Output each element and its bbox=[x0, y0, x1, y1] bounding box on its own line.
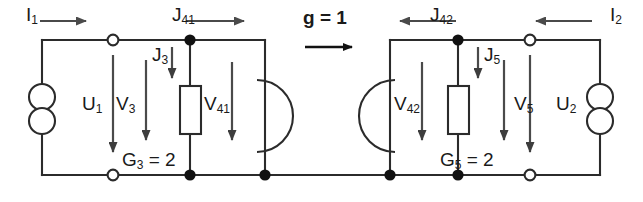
node-j41-top bbox=[184, 34, 195, 45]
circuit-diagram-figure: I1 J41 g = 1 J42 I2 U1 J3 V3 V41 G3 = 2 … bbox=[0, 0, 643, 202]
label-g3: G3 = 2 bbox=[122, 150, 176, 175]
terminal-open-bottom-left bbox=[108, 170, 119, 181]
label-j5: J5 bbox=[484, 45, 500, 70]
label-u2: U2 bbox=[556, 94, 576, 119]
node-right-inner-bottom bbox=[384, 169, 395, 180]
label-g5: G5 = 2 bbox=[440, 150, 494, 175]
label-j42: J42 bbox=[430, 5, 453, 30]
source-u2-symbol bbox=[587, 84, 613, 134]
resistor-g5-body bbox=[448, 86, 469, 134]
resistor-g3-body bbox=[180, 86, 201, 134]
label-i1: I1 bbox=[26, 5, 38, 30]
label-v41: V41 bbox=[204, 94, 230, 119]
controlled-source-left-arc bbox=[257, 80, 293, 152]
label-gain: g = 1 bbox=[303, 8, 347, 27]
node-left-inner-bottom bbox=[259, 169, 270, 180]
label-j3: J3 bbox=[152, 45, 168, 70]
terminal-open-bottom-right bbox=[525, 170, 536, 181]
label-j41: J41 bbox=[172, 5, 195, 30]
label-u1: U1 bbox=[82, 94, 102, 119]
label-v5: V5 bbox=[514, 94, 533, 119]
label-v3: V3 bbox=[116, 94, 135, 119]
node-j42-top bbox=[452, 34, 463, 45]
terminal-open-top-right bbox=[525, 35, 536, 46]
terminal-open-top-left bbox=[108, 35, 119, 46]
node-g3-bottom bbox=[184, 169, 195, 180]
source-u1-symbol bbox=[29, 84, 55, 134]
label-v42: V42 bbox=[394, 94, 420, 119]
label-i2: I2 bbox=[610, 5, 622, 30]
